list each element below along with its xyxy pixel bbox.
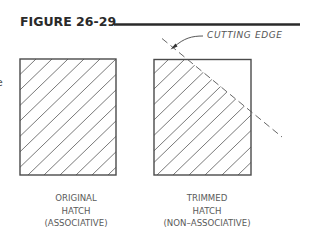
- caption-line: (NON–ASSOCIATIVE): [145, 217, 269, 230]
- caption-line: (ASSOCIATIVE): [28, 217, 124, 230]
- caption-line: ORIGINAL: [28, 192, 124, 205]
- cutting-edge-label: CUTTING EDGE: [207, 30, 283, 40]
- caption-line: TRIMMED: [145, 192, 269, 205]
- original-caption: ORIGINAL HATCH (ASSOCIATIVE): [28, 192, 124, 230]
- trimmed-boundary: [154, 60, 251, 176]
- cutting-edge-line: [162, 39, 282, 138]
- trimmed-hatch-panel: [33, 59, 311, 175]
- trimmed-caption: TRIMMED HATCH (NON–ASSOCIATIVE): [145, 192, 269, 230]
- caption-line: HATCH: [28, 205, 124, 218]
- caption-line: HATCH: [145, 205, 269, 218]
- leader-line: [174, 36, 203, 47]
